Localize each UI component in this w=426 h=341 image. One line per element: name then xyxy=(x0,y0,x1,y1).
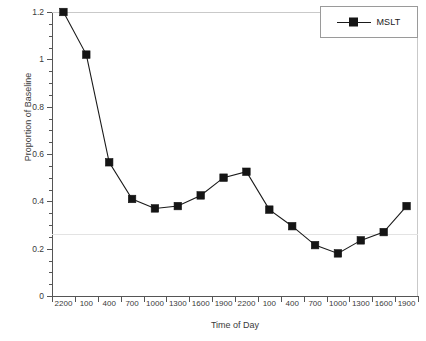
x-tick-label: 100 xyxy=(263,299,276,308)
chart-legend: MSLT xyxy=(320,6,418,38)
data-point-marker xyxy=(151,205,159,213)
y-tick-label: 0.6 xyxy=(32,149,44,159)
data-point-marker xyxy=(357,237,365,245)
x-tick-label: 700 xyxy=(125,299,138,308)
data-point-marker xyxy=(174,202,182,210)
y-tick-label: 0.4 xyxy=(32,196,44,206)
data-point-marker xyxy=(334,250,342,258)
data-point-marker xyxy=(288,222,296,230)
data-point-marker xyxy=(83,51,91,59)
x-tick-label: 400 xyxy=(103,299,116,308)
x-tick-label: 1000 xyxy=(146,299,164,308)
series-mslt xyxy=(52,12,418,296)
x-tick-label: 700 xyxy=(308,299,321,308)
data-point-marker xyxy=(128,195,136,203)
x-tick-label: 2200 xyxy=(55,299,73,308)
plot-area xyxy=(52,12,418,296)
x-tick-label: 1900 xyxy=(215,299,233,308)
y-axis-ticks: 00.20.40.60.811.2 xyxy=(0,12,52,296)
data-point-marker xyxy=(60,8,68,16)
data-point-marker xyxy=(220,174,228,182)
data-point-marker xyxy=(311,241,319,249)
x-tick-label: 1300 xyxy=(352,299,370,308)
data-point-marker xyxy=(243,168,251,176)
data-point-marker xyxy=(266,206,274,214)
x-tick-label: 1900 xyxy=(398,299,416,308)
x-tick-label: 400 xyxy=(286,299,299,308)
data-point-marker xyxy=(403,202,411,210)
y-tick-label: 0.8 xyxy=(32,102,44,112)
series-line xyxy=(63,12,406,253)
data-point-marker xyxy=(380,228,388,236)
x-tick-label: 1300 xyxy=(169,299,187,308)
y-tick-label: 0 xyxy=(39,291,44,301)
x-tick-label: 100 xyxy=(80,299,93,308)
chart-root: Proportion of Baseline 00.20.40.60.811.2… xyxy=(0,0,426,341)
x-tick-label: 1000 xyxy=(329,299,347,308)
data-point-marker xyxy=(197,192,205,200)
legend-marker-icon xyxy=(337,16,371,28)
x-tick-label: 1600 xyxy=(192,299,210,308)
data-point-marker xyxy=(105,159,113,167)
x-tick-label: 2200 xyxy=(238,299,256,308)
x-axis-tick-labels: 2200100400700100013001600190022001004007… xyxy=(52,299,418,313)
legend-item-label: MSLT xyxy=(376,17,400,27)
y-tick-label: 1 xyxy=(39,54,44,64)
y-tick-label: 0.2 xyxy=(32,244,44,254)
x-tick-label: 1600 xyxy=(375,299,393,308)
y-tick-label: 1.2 xyxy=(32,7,44,17)
x-axis-title: Time of Day xyxy=(52,320,418,330)
